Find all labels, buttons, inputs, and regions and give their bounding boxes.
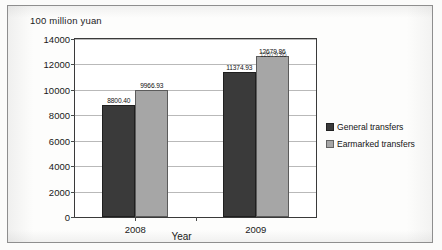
y-axis-tick-label: 2000: [49, 186, 70, 197]
bar-group: 11374.9312679.862009: [196, 39, 317, 217]
bar-value-label: 11374.93: [226, 64, 252, 71]
bar-value-label: 12679.86: [259, 48, 286, 55]
legend-swatch-icon: [326, 123, 334, 131]
legend-item-general-transfers[interactable]: General transfers: [326, 122, 415, 132]
y-axis-tick-label: 10000: [44, 84, 70, 95]
bar-value-label: 8800.40: [107, 97, 130, 104]
scan-frame: 100 million yuan 02000400060008000100001…: [7, 5, 433, 243]
y-axis-tick-label: 6000: [49, 135, 70, 146]
y-axis-tick-label: 0: [65, 212, 70, 223]
legend-swatch-icon: [326, 140, 334, 148]
bar-general-transfers-2009: 11374.93: [223, 72, 256, 217]
y-axis-tick-label: 4000: [49, 161, 70, 172]
x-axis-tick-mark: [196, 217, 197, 221]
y-axis-tick-mark: [71, 217, 75, 218]
bar-value-label: 9966.93: [140, 82, 163, 89]
y-axis-tick-label: 14000: [44, 34, 70, 45]
legend-item-label: Earmarked transfers: [337, 139, 415, 149]
chart-legend: General transfersEarmarked transfers: [326, 122, 415, 156]
y-axis-tick-label: 8000: [49, 110, 70, 121]
x-axis-title: Year: [74, 234, 317, 245]
y-axis-unit-caption: 100 million yuan: [30, 15, 102, 26]
x-axis-title-text: Year: [171, 231, 191, 242]
plot-area: 020004000600080001000012000140008800.409…: [74, 38, 317, 218]
chart-page: 100 million yuan 02000400060008000100001…: [0, 0, 442, 250]
bar-earmarked-transfers-2008: 9966.93: [135, 90, 168, 217]
x-axis-tick-mark: [135, 217, 136, 221]
y-axis-tick-label: 12000: [44, 59, 70, 70]
legend-item-earmarked-transfers[interactable]: Earmarked transfers: [326, 139, 415, 149]
bar-general-transfers-2008: 8800.40: [102, 105, 135, 217]
legend-item-label: General transfers: [337, 122, 403, 132]
bar-earmarked-transfers-2009: 12679.86: [256, 56, 289, 217]
bar-group: 8800.409966.932008: [75, 39, 196, 217]
